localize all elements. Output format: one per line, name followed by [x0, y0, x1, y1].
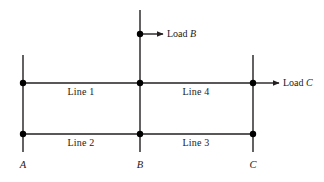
- load-b-text: Load: [167, 28, 190, 39]
- node-b-top: [137, 80, 143, 86]
- bus-label-c: C: [233, 159, 273, 170]
- load-c-text: Load: [283, 77, 306, 88]
- bus-label-b: B: [120, 159, 160, 170]
- load-c-bus: C: [306, 77, 313, 88]
- node-b-load: [137, 31, 143, 37]
- node-c-top: [250, 80, 256, 86]
- line-label-line2: Line 2: [41, 137, 121, 148]
- node-a-bottom: [20, 131, 26, 137]
- line-label-line1: Line 1: [41, 86, 121, 97]
- load-b-label: Load B: [167, 28, 196, 39]
- line-label-line4: Line 4: [156, 86, 236, 97]
- one-line-diagram: Line 1 Line 4 Line 2 Line 3 Load B Load …: [0, 0, 324, 182]
- node-a-top: [20, 80, 26, 86]
- node-c-bottom: [250, 131, 256, 137]
- line-label-line3: Line 3: [156, 137, 236, 148]
- load-c-label: Load C: [283, 77, 313, 88]
- node-b-bottom: [137, 131, 143, 137]
- bus-label-a: A: [3, 159, 43, 170]
- load-b-bus: B: [190, 28, 196, 39]
